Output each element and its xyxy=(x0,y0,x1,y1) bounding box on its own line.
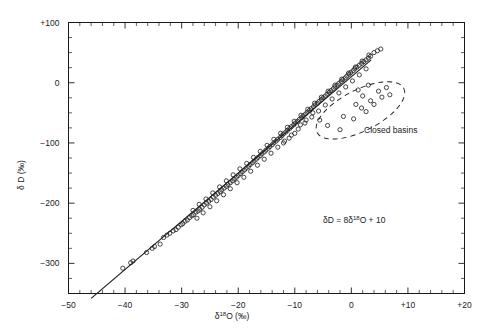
data-point xyxy=(238,167,242,171)
data-point xyxy=(121,266,125,270)
data-point xyxy=(372,102,376,106)
x-tick-label: 0 xyxy=(349,300,354,310)
closed-basins-envelope xyxy=(308,70,413,151)
svg-text:δ18O (‰): δ18O (‰) xyxy=(215,311,250,321)
x-tick-label: +10 xyxy=(401,300,416,310)
meteoric-water-line-figure: −50−40−30−20−100+10+20+1000−100−200−300 … xyxy=(0,0,490,333)
data-point xyxy=(224,179,228,183)
data-point xyxy=(341,114,345,118)
data-point xyxy=(296,127,300,131)
data-point xyxy=(380,95,384,99)
scatter-plot-canvas: −50−40−30−20−100+10+20+1000−100−200−300 … xyxy=(0,0,490,333)
data-point xyxy=(228,187,232,191)
closed-basins-annotation: Closed basins xyxy=(364,125,417,135)
plot-frame xyxy=(69,23,465,294)
data-point xyxy=(388,93,392,97)
x-tick-label: −10 xyxy=(288,300,303,310)
data-point xyxy=(242,175,246,179)
data-point xyxy=(357,73,361,77)
data-point xyxy=(337,91,341,95)
svg-text:δ D (‰): δ D (‰) xyxy=(16,160,26,190)
data-point xyxy=(364,67,368,71)
data-point xyxy=(338,128,342,132)
data-point xyxy=(364,110,368,114)
y-tick-label: −300 xyxy=(40,258,59,268)
x-tick-label: −50 xyxy=(61,300,76,310)
data-point xyxy=(359,106,363,110)
x-tick-label: +20 xyxy=(457,300,472,310)
x-tick-label: −30 xyxy=(174,300,189,310)
meteoric-water-line-equation: δD = 8δ18O + 10 xyxy=(323,215,386,225)
closed-basins-label: Closed basins xyxy=(364,125,417,135)
data-point xyxy=(215,199,219,203)
data-point xyxy=(330,97,334,101)
data-point xyxy=(221,193,225,197)
data-point xyxy=(208,205,212,209)
data-point xyxy=(368,99,372,103)
data-point xyxy=(255,163,259,167)
axis-ticks xyxy=(69,23,465,294)
data-point xyxy=(231,173,235,177)
y-tick-label: −200 xyxy=(40,198,59,208)
data-point xyxy=(350,79,354,83)
data-point xyxy=(298,123,302,127)
data-point xyxy=(195,216,199,220)
data-point xyxy=(384,85,388,89)
x-axis-title: δ18O (‰) xyxy=(215,311,250,321)
data-points xyxy=(121,47,392,270)
data-point xyxy=(293,131,297,135)
data-point xyxy=(287,136,291,140)
x-tick-label: −40 xyxy=(118,300,133,310)
data-point xyxy=(310,115,314,119)
x-tick-label: −20 xyxy=(231,300,246,310)
y-tick-label: −100 xyxy=(40,138,59,148)
data-point xyxy=(262,157,266,161)
data-point xyxy=(235,181,239,185)
data-point xyxy=(323,103,327,107)
equation-annotation: δD = 8δ18O + 10 xyxy=(323,215,386,225)
data-point xyxy=(352,117,356,121)
data-point xyxy=(354,102,358,106)
data-point xyxy=(158,242,162,246)
data-point xyxy=(201,211,205,215)
data-point xyxy=(249,169,253,173)
closed-basins-dashed-ellipse xyxy=(308,70,413,151)
data-point xyxy=(326,123,330,127)
y-axis-title: δ D (‰) xyxy=(16,160,26,190)
data-point xyxy=(316,109,320,113)
data-point xyxy=(361,94,365,98)
data-point xyxy=(376,89,380,93)
data-point xyxy=(311,111,315,115)
y-tick-label: 0 xyxy=(55,78,60,88)
data-point xyxy=(269,151,273,155)
data-point xyxy=(276,145,280,149)
data-point xyxy=(344,85,348,89)
data-point xyxy=(379,47,383,51)
y-tick-label: +100 xyxy=(40,18,59,28)
